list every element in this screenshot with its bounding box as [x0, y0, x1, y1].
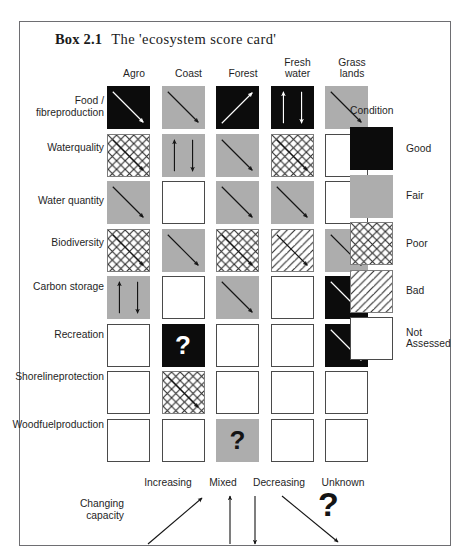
cell-water-quantity-freshwater[interactable]: [271, 181, 314, 224]
cell-food-fibre-production-forest[interactable]: [216, 86, 259, 129]
cell-woodfuel-production-agro[interactable]: [107, 419, 150, 462]
row-label-carbon-storage: Carbon storage: [10, 281, 104, 293]
cell-water-quality-agro[interactable]: [107, 134, 150, 177]
unknown-question-mark: ?: [217, 420, 258, 461]
column-header-freshwater: Freshwater: [271, 57, 325, 80]
cell-water-quantity-agro[interactable]: [107, 181, 150, 224]
cell-shoreline-protection-coast[interactable]: [162, 371, 205, 414]
legend-label-line: Not: [406, 327, 468, 339]
trend-arrow-decreasing-icon: [272, 135, 313, 176]
trend-arrow-increasing-icon: [217, 87, 258, 128]
unknown-question-mark-glyph: ?: [318, 487, 339, 521]
changing-capacity-label-line: Changing: [36, 498, 124, 510]
change-label-mixed: Mixed: [202, 477, 244, 488]
cell-shoreline-protection-freshwater[interactable]: [271, 371, 314, 414]
trend-arrow-decreasing-icon: [108, 230, 149, 271]
legend-label-line: Poor: [406, 238, 468, 250]
trend-arrow-mixed-icon: [272, 87, 313, 128]
cell-food-fibre-production-agro[interactable]: [107, 86, 150, 129]
cell-food-fibre-production-freshwater[interactable]: [271, 86, 314, 129]
legend-label-line: Good: [406, 143, 468, 155]
cell-woodfuel-production-coast[interactable]: [162, 419, 205, 462]
row-label-line: protection: [59, 371, 104, 382]
cell-carbon-storage-forest[interactable]: [216, 276, 259, 319]
row-label-food-fibre-production: Food / fibreproduction: [10, 95, 104, 118]
trend-arrow-decreasing-icon: [108, 135, 149, 176]
trend-arrow-decreasing-icon: [108, 87, 149, 128]
trend-arrow-decreasing-icon: [108, 182, 149, 223]
legend-label-good: Good: [406, 143, 468, 155]
column-header-line: lands: [325, 68, 379, 80]
box-number: Box 2.1: [55, 31, 102, 47]
change-label-decreasing: Decreasing: [246, 477, 312, 488]
legend-item-not-assessed[interactable]: NotAssessed: [350, 317, 468, 360]
cell-carbon-storage-coast[interactable]: [162, 276, 205, 319]
cell-biodiversity-coast[interactable]: [162, 229, 205, 272]
cell-carbon-storage-agro[interactable]: [107, 276, 150, 319]
column-headers: AgroCoastForestFreshwaterGrasslands: [107, 50, 377, 80]
legend-swatch-fair: [350, 175, 393, 218]
legend-item-good[interactable]: Good: [350, 127, 468, 170]
trend-arrow-decreasing-icon: [163, 230, 204, 271]
legend-item-fair[interactable]: Fair: [350, 175, 468, 218]
legend-label-poor: Poor: [406, 238, 468, 250]
column-header-line: Forest: [216, 68, 270, 80]
row-label-water-quality: Waterquality: [10, 142, 104, 154]
row-label-line: Water quantity: [38, 195, 104, 206]
cell-biodiversity-forest[interactable]: [216, 229, 259, 272]
cell-water-quantity-coast[interactable]: [162, 181, 205, 224]
legend-swatch-bad: [350, 270, 393, 313]
legend-condition-title: Condition: [350, 105, 394, 116]
cell-water-quality-forest[interactable]: [216, 134, 259, 177]
cell-shoreline-protection-forest[interactable]: [216, 371, 259, 414]
cell-shoreline-protection-grasslands[interactable]: [325, 371, 368, 414]
cell-water-quality-freshwater[interactable]: [271, 134, 314, 177]
row-label-recreation: Recreation: [10, 329, 104, 341]
legend-swatch-good: [350, 127, 393, 170]
cell-shoreline-protection-agro[interactable]: [107, 371, 150, 414]
cell-water-quality-coast[interactable]: [162, 134, 205, 177]
cell-woodfuel-production-freshwater[interactable]: [271, 419, 314, 462]
changing-capacity-label-line: capacity: [36, 510, 124, 522]
row-label-line: Biodiversity: [51, 237, 104, 248]
legend-item-poor[interactable]: Poor: [350, 222, 468, 265]
cell-carbon-storage-freshwater[interactable]: [271, 276, 314, 319]
page-title: Box 2.1The 'ecosystem score card': [55, 31, 276, 48]
row-label-line: Water: [47, 142, 74, 153]
cell-biodiversity-agro[interactable]: [107, 229, 150, 272]
column-header-line: Coast: [162, 68, 216, 80]
row-label-water-quantity: Water quantity: [10, 195, 104, 207]
cell-recreation-freshwater[interactable]: [271, 324, 314, 367]
column-header-line: Agro: [107, 68, 161, 80]
cell-woodfuel-production-grasslands[interactable]: [325, 419, 368, 462]
trend-arrow-decreasing-icon: [217, 135, 258, 176]
cell-recreation-agro[interactable]: [107, 324, 150, 367]
legend-label-line: Fair: [406, 190, 468, 202]
column-header-forest: Forest: [216, 68, 270, 80]
cell-food-fibre-production-coast[interactable]: [162, 86, 205, 129]
cell-water-quantity-forest[interactable]: [216, 181, 259, 224]
unknown-question-mark: ?: [163, 325, 204, 366]
column-header-line: Grass: [325, 57, 379, 69]
column-header-line: water: [271, 68, 325, 80]
legend-swatch-not-assessed: [350, 317, 393, 360]
trend-arrow-mixed-icon: [108, 277, 149, 318]
legend-swatch-poor: [350, 222, 393, 265]
trend-arrow-mixed-icon: [163, 135, 204, 176]
cell-recreation-forest[interactable]: [216, 324, 259, 367]
legend-label-line: Assessed: [406, 339, 468, 351]
cell-woodfuel-production-forest[interactable]: ?: [216, 419, 259, 462]
change-label-increasing: Increasing: [137, 477, 199, 488]
legend-label-line: Bad: [406, 285, 468, 297]
column-header-coast: Coast: [162, 68, 216, 80]
row-label-line: Recreation: [54, 329, 104, 340]
cell-recreation-coast[interactable]: ?: [162, 324, 205, 367]
trend-arrow-decreasing-icon: [272, 182, 313, 223]
column-header-grasslands: Grasslands: [325, 57, 379, 80]
legend-label-bad: Bad: [406, 285, 468, 297]
box-caption: The 'ecosystem score card': [111, 31, 276, 47]
legend-item-bad[interactable]: Bad: [350, 270, 468, 313]
change-label-unknown: Unknown: [314, 477, 372, 488]
cell-biodiversity-freshwater[interactable]: [271, 229, 314, 272]
trend-arrow-decreasing-icon: [217, 230, 258, 271]
